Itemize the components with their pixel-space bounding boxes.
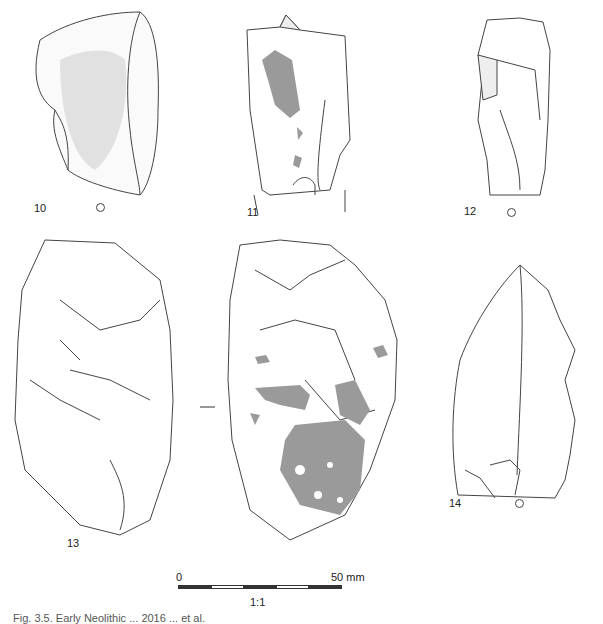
orientation-circle-icon bbox=[507, 208, 516, 217]
scale-bar bbox=[178, 585, 342, 589]
orientation-circle-icon bbox=[515, 499, 524, 508]
artifact-13-face-b-drawing bbox=[228, 240, 397, 540]
scale-ratio: 1:1 bbox=[250, 596, 265, 608]
artifact-12-drawing bbox=[478, 18, 550, 195]
artifact-label-13: 13 bbox=[67, 537, 79, 549]
figure-caption: Fig. 3.5. Early Neolithic ... 2016 ... e… bbox=[13, 612, 205, 624]
artifact-10-drawing bbox=[36, 12, 158, 195]
artifact-drawings bbox=[0, 0, 603, 624]
artifact-14-drawing bbox=[453, 265, 575, 498]
artifact-label-14: 14 bbox=[449, 497, 461, 509]
artifact-13-face-a-drawing bbox=[15, 240, 173, 535]
artifact-label-12: 12 bbox=[464, 205, 476, 217]
artifact-label-11: 11 bbox=[247, 206, 258, 218]
artifact-11-drawing bbox=[247, 15, 350, 215]
scale-start-label: 0 bbox=[176, 571, 182, 583]
artifact-label-10: 10 bbox=[34, 202, 46, 214]
scale-end-label: 50 mm bbox=[331, 571, 365, 583]
orientation-circle-icon bbox=[96, 203, 105, 212]
